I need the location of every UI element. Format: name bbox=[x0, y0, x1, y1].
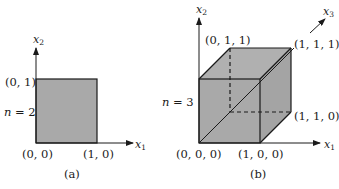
panel-a-square: x2 x1 (0, 1) n = 2 (0, 0) (1, 0) (a) bbox=[4, 33, 146, 181]
vertex-label-0-0: (0, 0) bbox=[22, 147, 53, 161]
x3-axis-label: x3 bbox=[323, 5, 334, 19]
panel-b-caption: (b) bbox=[250, 167, 266, 181]
vertex-label-1-0: (1, 0) bbox=[83, 147, 114, 161]
x1-axis-label: x1 bbox=[324, 138, 335, 152]
vertex-label-1-0-0: (1, 0, 0) bbox=[238, 147, 284, 161]
x1-axis-label: x1 bbox=[135, 138, 146, 152]
n-label: n = 3 bbox=[162, 95, 194, 109]
unit-square bbox=[36, 79, 97, 143]
panel-a-caption: (a) bbox=[64, 167, 80, 181]
panel-b-cube: x2 x3 x1 (0, 1, 1) (1, 1, 1) (1, 1, 0) (… bbox=[162, 3, 339, 181]
x3-axis-arrow bbox=[310, 19, 325, 33]
x2-axis-label: x2 bbox=[33, 33, 44, 47]
vertex-label-0-0-0: (0, 0, 0) bbox=[176, 147, 222, 161]
vertex-label-1-1-1: (1, 1, 1) bbox=[294, 37, 339, 51]
vertex-label-0-1-1: (0, 1, 1) bbox=[205, 33, 251, 47]
vertex-label-1-1-0: (1, 1, 0) bbox=[294, 109, 339, 123]
x2-axis-label: x2 bbox=[196, 3, 207, 17]
n-label: n = 2 bbox=[4, 105, 36, 119]
vertex-label-0-1: (0, 1) bbox=[5, 75, 36, 89]
hypercube-diagram: x2 x1 (0, 1) n = 2 (0, 0) (1, 0) (a) bbox=[0, 0, 339, 189]
